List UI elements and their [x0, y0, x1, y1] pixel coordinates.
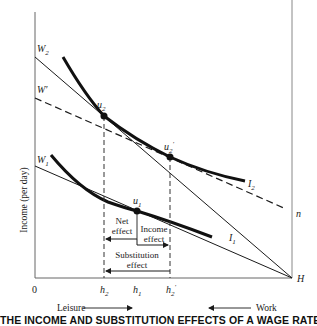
label-origin: 0: [32, 284, 37, 295]
label-n: n: [296, 208, 301, 219]
label-wprime: W′: [37, 84, 48, 95]
income-effect-label-2: effect: [144, 234, 165, 244]
label-h-corner: H: [296, 273, 305, 284]
point-u2: [101, 113, 108, 120]
substitution-effect-label-1: Substitution: [115, 250, 159, 260]
label-i2: I2: [247, 178, 255, 192]
y-axis-label: Income (per day): [19, 167, 30, 232]
net-effect-label-2: effect: [112, 226, 133, 236]
tick-h2prime: h2′: [166, 283, 177, 298]
indifference-curve-i2: [63, 57, 245, 181]
tick-h2: h2: [100, 284, 109, 298]
leisure-label: Leisure: [57, 303, 86, 313]
net-effect-label-1: Net: [116, 216, 129, 226]
label-u2prime: u2′: [164, 140, 175, 155]
label-w1: W1: [37, 154, 49, 168]
work-label: Work: [256, 303, 277, 313]
label-u1: u1: [133, 195, 142, 209]
income-effect-label-1: Income: [141, 224, 168, 234]
label-w2: W2: [37, 43, 49, 57]
substitution-effect-label-2: effect: [127, 260, 148, 270]
budget-line-w1: [35, 166, 292, 278]
figure-title: THE INCOME AND SUBSTITUTION EFFECTS OF A…: [0, 314, 317, 326]
indifference-curve-i1: [51, 155, 212, 237]
label-i1: I1: [228, 232, 236, 246]
tick-h1: h1: [133, 284, 142, 298]
